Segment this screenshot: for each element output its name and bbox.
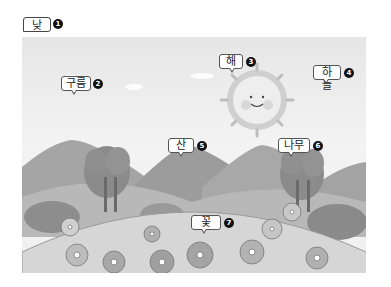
number-badge-5: 5 [197,141,207,151]
label-sky: 하늘 [313,65,341,80]
label-cloud: 구름 [61,76,91,91]
number-badge-7: 7 [224,218,234,228]
sun-icon [221,64,293,136]
number-badge-1: 1 [53,19,63,29]
label-text: 하늘 [322,66,332,92]
label-sun: 해 [219,54,243,69]
number-badge-3: 3 [246,57,256,67]
label-text: 산 [176,139,186,152]
label-text: 구름 [66,77,86,90]
label-text: 해 [226,55,236,68]
title-text: 낮 [32,19,42,32]
label-flower: 꽃 [191,215,221,230]
number-badge-6: 6 [313,141,323,151]
title-label: 낮 [23,17,51,32]
label-text: 나무 [284,139,304,152]
number-badge-4: 4 [344,68,354,78]
label-mountain: 산 [168,138,194,153]
label-text: 꽃 [201,216,211,229]
illustration-panel: 구름 2 해 3 하늘 4 산 5 나무 6 꽃 7 [22,37,366,273]
number-badge-2: 2 [93,79,103,89]
label-tree: 나무 [278,138,310,153]
